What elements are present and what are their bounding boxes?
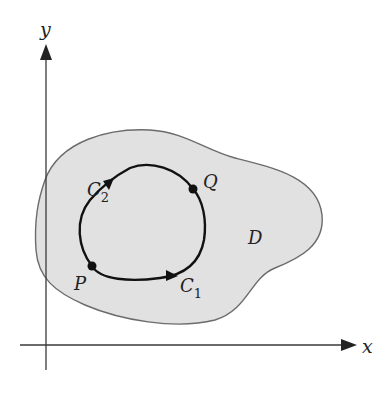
curve-c1-label-sub: 1	[194, 286, 202, 301]
x-axis-arrowhead-icon	[341, 339, 357, 351]
diagram-canvas: y x D P Q C2 C1	[0, 0, 391, 396]
point-p-label: P	[73, 273, 87, 294]
y-axis-label: y	[39, 18, 51, 40]
y-axis-arrowhead-icon	[40, 44, 52, 60]
x-axis-label: x	[362, 335, 373, 357]
region-d	[35, 130, 322, 324]
curve-c2-label-sub: 2	[101, 190, 109, 205]
curve-c1-label-main: C	[180, 275, 194, 296]
curve-c2-label-main: C	[87, 179, 101, 200]
point-q	[189, 185, 198, 194]
point-q-label: Q	[203, 171, 218, 192]
region-d-label: D	[247, 227, 263, 248]
point-p	[88, 262, 97, 271]
